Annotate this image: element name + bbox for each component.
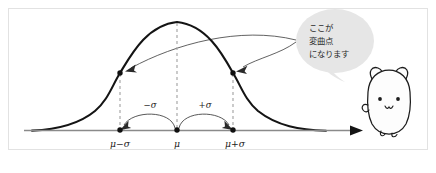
mascot-body xyxy=(368,70,411,134)
bubble-body xyxy=(296,9,374,73)
axis-label-mu: μ xyxy=(174,138,180,149)
mascot-eye-left xyxy=(378,97,382,101)
inflection-point-left-dot xyxy=(117,70,122,75)
axis-label-mu-plus-sigma: μ+σ xyxy=(225,138,246,149)
axis-dot-mu-minus-sigma xyxy=(117,127,122,132)
span-label-minus-sigma: −σ xyxy=(143,100,157,110)
callout-line-3: になります xyxy=(309,49,349,59)
axis-dot-mu xyxy=(174,127,179,132)
mascot-eye-right xyxy=(396,97,400,101)
callout-line-1: ここが xyxy=(309,23,334,33)
diagram-svg: ここが 変曲点 になります xyxy=(0,0,436,173)
figure-container: ここが 変曲点 になります xyxy=(0,0,436,173)
axis-label-mu-minus-sigma: μ−σ xyxy=(110,138,131,149)
callout-line-2: 変曲点 xyxy=(309,36,333,46)
inflection-point-right-dot xyxy=(230,70,235,75)
span-label-plus-sigma: +σ xyxy=(198,100,212,110)
axis-dot-mu-plus-sigma xyxy=(230,127,235,132)
